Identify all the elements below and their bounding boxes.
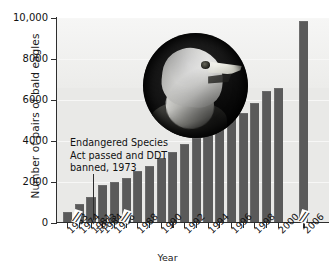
y-axis-tick-label: 8000 [0,53,48,64]
y-axis-tick-label: 4000 [0,135,48,146]
y-axis-tick-label: 10,000 [0,12,48,23]
y-axis-tick-label: 0 [0,217,48,228]
bar [274,88,283,223]
bar [192,138,201,223]
bar [203,130,212,223]
annotation-text: Endangered Species Act passed and DDT ba… [70,137,168,175]
bar [250,103,259,223]
bar [239,113,248,223]
y-axis-tick [51,18,57,19]
gridline [57,18,329,19]
y-axis-tick [51,141,57,142]
x-axis-title: Year [0,252,335,263]
y-axis-tick [51,59,57,60]
bar [180,144,189,223]
y-axis-tick-label: 6000 [0,94,48,105]
y-axis-tick-label: 2000 [0,176,48,187]
bald-eagle-photo [143,33,248,138]
eagle-eye [201,61,210,68]
y-axis-line [56,17,57,224]
bar [215,124,224,223]
bar [133,171,142,223]
bar [227,115,236,223]
bar [299,21,308,223]
y-axis-tick [51,223,57,224]
plot-area: Endangered Species Act passed and DDT ba… [57,18,329,223]
bar [262,91,271,223]
chart-figure: Number of pairs of bald eagles Endangere… [0,0,335,272]
y-axis-tick [51,182,57,183]
y-axis-tick [51,100,57,101]
